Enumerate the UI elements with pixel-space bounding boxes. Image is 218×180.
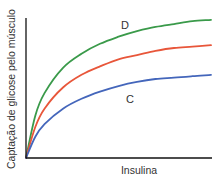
curve-middle [26,45,211,158]
curve-c [26,75,211,158]
curve-label-d: D [121,19,129,31]
curves-group [26,20,211,158]
y-axis-label: Captação de glicose pelo músculo [5,9,17,169]
curve-label-c: C [126,93,134,105]
curve-d [26,20,211,158]
chart-canvas [0,0,218,180]
x-axis-label: Insulina [121,164,157,176]
